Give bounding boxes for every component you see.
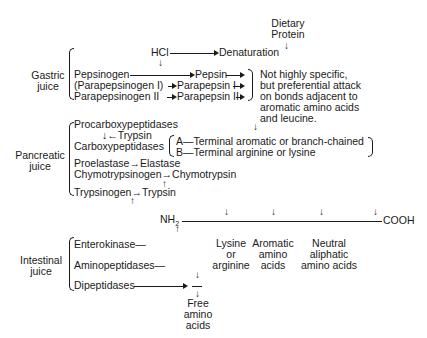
cleavage-site-neutral-aliphatic: Neutral aliphatic amino acids — [297, 238, 361, 271]
dipeptidases-label: Dipeptidases — [74, 280, 135, 291]
pancreatic-juice-label: Pancreatic juice — [12, 150, 68, 172]
parapepsin-2-label: Parapepsin II — [177, 91, 239, 102]
denaturation-label: Denaturation — [219, 47, 279, 58]
chymotrypsinogen-text: Chymotrypsinogen — [74, 168, 162, 180]
arrow-down-icon: ↓ — [158, 58, 163, 68]
arrow-down-icon: ↓ — [284, 41, 289, 51]
parapepsinogen-2-label: Parapepsinogen II — [74, 91, 159, 102]
free-amino-acids-label: Free amino acids — [180, 298, 216, 331]
cleavage-site-aromatic: Aromatic amino acids — [250, 238, 296, 271]
arrow-down-icon: ↓ — [224, 207, 229, 217]
cleavage-site-lysine-arginine: Lysine or arginine — [208, 238, 254, 271]
c-terminus-label: COOH — [383, 215, 415, 226]
protein-text: Protein — [258, 29, 318, 40]
peptide-chain-line — [182, 221, 382, 222]
specificity-line: and leucine. — [260, 113, 361, 124]
dipeptidases-arrow-line — [134, 286, 184, 287]
intestinal-juice-label: Intestinal juice — [14, 255, 68, 277]
nh-text: NH — [160, 213, 175, 225]
enterokinase-label: Enterokinase— — [74, 239, 146, 250]
juice-text: juice — [28, 81, 68, 92]
carboxypeptidase-b-label: B—Terminal arginine or lysine — [176, 147, 315, 158]
carboxy-types-brace — [169, 135, 174, 157]
trypsinogen-text: Trypsinogen — [74, 186, 131, 198]
dietary-protein-label: Dietary Protein — [258, 18, 318, 40]
chymotrypsin-text: Chymotrypsin — [172, 168, 236, 180]
pepsin-group-brace — [248, 69, 253, 101]
site-text: acids — [250, 260, 296, 271]
aminopeptidases-label: Aminopeptidases— — [74, 260, 165, 271]
pepsin-specificity-text: Not highly specific, but preferential at… — [260, 69, 361, 124]
gastric-juice-label: Gastric juice — [28, 70, 68, 92]
arrowhead-icon — [183, 283, 188, 289]
juice-text: juice — [14, 266, 68, 277]
carboxy-types-right-brace — [368, 137, 373, 157]
chymotrypsinogen-label: Chymotrypsinogen→Chymotrypsin — [74, 169, 236, 180]
site-text: amino acids — [297, 260, 361, 271]
arrow-up-icon: ↑ — [130, 196, 135, 206]
arrow-down-icon: ↓ — [373, 207, 378, 217]
juice-text: juice — [12, 161, 68, 172]
site-text: arginine — [208, 260, 254, 271]
arrow-down-icon: ↓ — [271, 207, 276, 217]
pepsinogen-arrow-line — [130, 75, 192, 76]
arrow-down-icon: ↓ — [253, 122, 258, 132]
carboxypeptidases-label: Carboxypeptidases — [74, 141, 164, 152]
arrowhead-icon — [240, 83, 245, 89]
product-text: acids — [180, 320, 216, 331]
arrowhead-icon — [240, 94, 245, 100]
trypsinogen-label: Trypsinogen→Trypsin — [74, 187, 176, 198]
arrowhead-icon — [240, 72, 245, 78]
arrow-down-icon: ↓ — [319, 207, 324, 217]
arrow-up-icon: ↑ — [175, 224, 180, 234]
trypsin-text: Trypsin — [142, 186, 176, 198]
arrow-down-icon: ↓ — [195, 270, 200, 280]
dipeptide-bar — [192, 286, 202, 287]
hcl-arrow-line — [170, 53, 216, 54]
